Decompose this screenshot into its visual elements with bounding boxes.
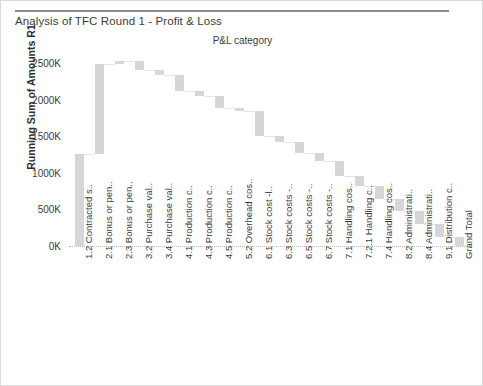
legend-title: P&L category [1, 35, 483, 46]
waterfall-bar[interactable] [215, 96, 224, 108]
waterfall-bar[interactable] [235, 108, 244, 111]
waterfall-bar[interactable] [195, 91, 204, 96]
waterfall-connector [164, 75, 175, 76]
x-tick-label: 7.1 Handling cos.. [343, 183, 354, 259]
waterfall-bar[interactable] [135, 61, 144, 71]
y-tick-label: 1500K [9, 131, 61, 142]
title-divider [15, 10, 449, 12]
y-tick-label: 2500K [9, 58, 61, 69]
waterfall-connector [224, 108, 235, 109]
waterfall-bar[interactable] [255, 111, 264, 136]
x-tick-label: 4.5 Production c.. [223, 185, 234, 259]
x-tick-label: 6.3 Stock costs -.. [283, 184, 294, 260]
x-tick-label: 8.4 Administrati.. [423, 189, 434, 259]
waterfall-connector [184, 91, 195, 92]
waterfall-connector [104, 64, 115, 65]
waterfall-connector [264, 136, 275, 137]
waterfall-connector [124, 61, 135, 62]
x-tick-label: 7.4 Handling cos.. [383, 183, 394, 259]
x-tick-label: 7.2.1 Handling c.. [363, 185, 374, 259]
waterfall-bar[interactable] [115, 61, 124, 65]
x-tick-label: Grand Total [463, 210, 474, 259]
x-tick-label: 4.1 Production c.. [183, 185, 194, 259]
x-tick-label: 2.1 Bonus or pen.. [103, 181, 114, 259]
x-tick-label: 5.2 Overhead cos.. [243, 179, 254, 259]
x-tick-label: 2.3 Bonus or pen.. [123, 181, 134, 259]
waterfall-connector [324, 161, 335, 162]
x-tick-label: 6.7 Stock costs -.. [323, 184, 334, 260]
y-tick-label: 500K [9, 204, 61, 215]
waterfall-connector [204, 96, 215, 97]
waterfall-bar[interactable] [335, 161, 344, 176]
x-tick-label: 4.3 Production c.. [203, 185, 214, 259]
page-title: Analysis of TFC Round 1 - Profit & Loss [15, 15, 222, 27]
waterfall-connector [244, 111, 255, 112]
y-tick-label: 1000K [9, 167, 61, 178]
x-tick-label: 9.1 Distribution c.. [443, 183, 454, 259]
waterfall-connector [84, 154, 95, 155]
x-tick-label: 8.2 Administrati.. [403, 189, 414, 259]
waterfall-bar[interactable] [295, 142, 304, 153]
waterfall-bar[interactable] [315, 153, 324, 161]
x-tick-label: 6.5 Stock costs -.. [303, 184, 314, 260]
waterfall-bar[interactable] [175, 75, 184, 91]
waterfall-connector [144, 70, 155, 71]
chart-container: Analysis of TFC Round 1 - Profit & Loss … [0, 0, 483, 386]
waterfall-connector [344, 176, 355, 177]
waterfall-bar[interactable] [95, 64, 104, 154]
y-tick-label: 2000K [9, 94, 61, 105]
waterfall-connector [284, 142, 295, 143]
x-tick-label: 3.4 Purchase val.. [163, 183, 174, 259]
x-tick-label: 3.2 Purchase val.. [143, 183, 154, 259]
x-tick-label: 1.2 Contracted s.. [83, 184, 94, 259]
waterfall-bar[interactable] [155, 70, 164, 74]
waterfall-connector [304, 153, 315, 154]
waterfall-bar[interactable] [275, 136, 284, 142]
y-tick-label: 0K [9, 241, 61, 252]
x-tick-label: 6.1 Stock cost -l.. [263, 186, 274, 259]
